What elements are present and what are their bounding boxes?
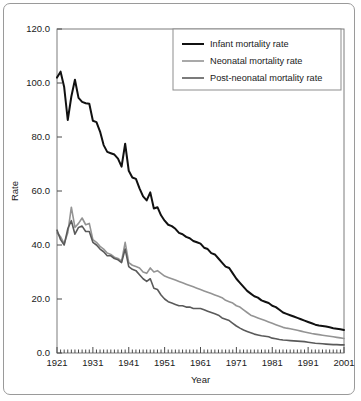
x-axis-tick-label: 1981	[262, 357, 283, 368]
x-axis-tick-label: 1951	[154, 357, 175, 368]
y-axis-tick-label: 100.0	[26, 77, 50, 88]
legend-label-1: Neonatal mortality rate	[210, 56, 302, 66]
legend-label-0: Infant mortality rate	[210, 39, 289, 49]
x-axis-tick-label: 1931	[82, 357, 103, 368]
x-axis-tick-label: 1961	[190, 357, 211, 368]
mortality-rate-line-chart: 0.020.040.060.080.0100.0120.019211931194…	[0, 0, 361, 401]
x-axis-tick-label: 1991	[298, 357, 319, 368]
x-axis-tick-label: 2001	[333, 357, 354, 368]
x-axis-tick-label: 1971	[226, 357, 247, 368]
y-axis-tick-label: 20.0	[32, 293, 51, 304]
x-axis-tick-label: 1921	[46, 357, 67, 368]
y-axis-title: Rate	[9, 181, 20, 201]
x-axis-tick-label: 1941	[118, 357, 139, 368]
y-axis-tick-label: 60.0	[32, 185, 51, 196]
legend-label-2: Post-neonatal mortality rate	[210, 73, 322, 83]
y-axis-tick-label: 40.0	[32, 239, 51, 250]
y-axis-tick-label: 120.0	[26, 23, 50, 34]
x-axis-title: Year	[191, 374, 210, 385]
y-axis-tick-label: 80.0	[32, 131, 51, 142]
chart-svg: 0.020.040.060.080.0100.0120.019211931194…	[0, 0, 361, 401]
